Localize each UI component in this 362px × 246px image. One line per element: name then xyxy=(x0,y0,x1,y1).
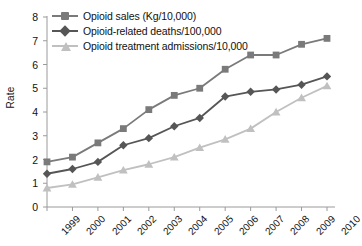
legend-symbol-square-icon xyxy=(52,10,78,22)
legend-label: Opioid treatment admissions/10,000 xyxy=(83,40,248,52)
legend-item-treatment-admissions: Opioid treatment admissions/10,000 xyxy=(52,39,248,53)
y-axis-tick-label: 0 xyxy=(22,202,38,212)
y-axis-tick-label: 4 xyxy=(22,107,38,117)
legend-symbol-diamond-icon xyxy=(52,25,78,37)
y-axis-tick-label: 6 xyxy=(22,60,38,70)
legend-item-opioid-deaths: Opioid-related deaths/100,000 xyxy=(52,24,248,38)
legend-symbol-triangle-icon xyxy=(52,40,78,52)
y-axis-tick-label: 7 xyxy=(22,36,38,46)
y-axis-tick-label: 8 xyxy=(22,12,38,22)
chart-legend: Opioid sales (Kg/10,000) Opioid-related … xyxy=(52,9,248,54)
y-axis-tick-label: 3 xyxy=(22,131,38,141)
y-axis-tick-label: 1 xyxy=(22,178,38,188)
legend-item-opioid-sales: Opioid sales (Kg/10,000) xyxy=(52,9,248,23)
y-axis-tick-label: 2 xyxy=(22,155,38,165)
legend-label: Opioid-related deaths/100,000 xyxy=(83,25,221,37)
legend-label: Opioid sales (Kg/10,000) xyxy=(83,10,196,22)
y-axis-tick-label: 5 xyxy=(22,83,38,93)
